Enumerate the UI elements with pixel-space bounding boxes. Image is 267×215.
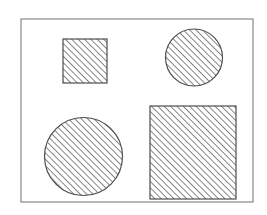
shape-small-square <box>63 39 107 83</box>
shape-large-square <box>150 106 236 199</box>
diagram-root: Hatched geometric shapes inside a rectan… <box>0 0 267 215</box>
shapes-canvas <box>0 0 267 215</box>
shape-top-right-circle <box>166 29 223 86</box>
shape-bottom-left-circle <box>45 118 123 196</box>
